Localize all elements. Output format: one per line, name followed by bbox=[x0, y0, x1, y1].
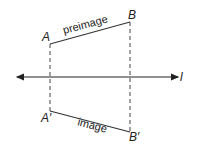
point-b-label: B bbox=[128, 8, 136, 22]
point-a-label: A bbox=[41, 30, 50, 44]
preimage-label: preimage bbox=[61, 12, 108, 35]
point-b-prime-label: B′ bbox=[129, 130, 140, 144]
line-l-label: l bbox=[180, 70, 183, 84]
point-a-prime-label: A′ bbox=[40, 111, 52, 125]
reflection-diagram: A B A′ B′ l preimage image bbox=[0, 0, 201, 153]
image-label: image bbox=[76, 115, 108, 134]
